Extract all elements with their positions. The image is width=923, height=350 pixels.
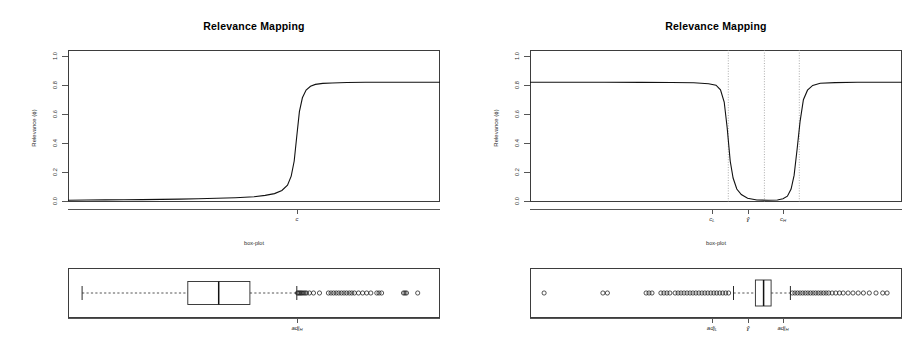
relevance-mapping-figure: Relevance Mapping Relevance (ϕ) 1.0 0.8 … xyxy=(0,0,923,350)
left-y-tick-label: 0.2 xyxy=(52,168,58,176)
left-x-axis-line xyxy=(68,209,440,210)
right-plot-title: Relevance Mapping xyxy=(665,20,766,32)
right-y-tick-label: 0.4 xyxy=(514,139,520,147)
right-boxplot-tick-label-adjL: adjL xyxy=(707,325,717,332)
left-boxplot-tick-label-adjH: adjH xyxy=(291,325,302,332)
left-y-tick-label: 0.8 xyxy=(52,81,58,89)
right-boxplot-tick-adjL xyxy=(712,318,713,323)
left-panel: Relevance Mapping Relevance (ϕ) 1.0 0.8 … xyxy=(0,0,462,350)
right-y-tick-label: 0.2 xyxy=(514,168,520,176)
right-boxplot-tick-adjH xyxy=(783,318,784,323)
right-boxplot-tick-label-gamma: ɣ̂ xyxy=(746,325,749,331)
right-y-tick-label: 0.6 xyxy=(514,110,520,118)
right-x-tick-label-cH: cH xyxy=(780,216,786,223)
right-y-tick-label: 1.0 xyxy=(514,52,520,60)
right-y-tick-label: 0.8 xyxy=(514,81,520,89)
left-plot-title: Relevance Mapping xyxy=(203,20,304,32)
right-x-tick-label-cL: cL xyxy=(709,216,714,223)
left-y-tick-label: 1.0 xyxy=(52,52,58,60)
right-relevance-curve xyxy=(530,50,902,202)
right-x-axis-line xyxy=(530,209,902,210)
left-boxplot-graphic xyxy=(68,268,440,318)
left-boxplot-axis-line xyxy=(68,318,440,319)
right-x-tick-gamma xyxy=(748,209,749,214)
right-boxplot-tick-label-adjH: adjH xyxy=(777,325,788,332)
left-y-tick-label: 0.0 xyxy=(52,197,58,205)
right-y-tick-label: 0.0 xyxy=(514,197,520,205)
right-y-axis-title: Relevance (ϕ) xyxy=(493,109,499,146)
left-boxplot-tick-adjH xyxy=(297,318,298,323)
right-boxplot-graphic xyxy=(530,268,902,318)
right-x-tick-label-gamma: ɣ̂ xyxy=(746,216,749,222)
left-y-tick-label: 0.4 xyxy=(52,139,58,147)
right-boxplot-title: box-plot xyxy=(706,240,726,246)
left-x-tick-c xyxy=(297,209,298,214)
left-x-tick-label-c: c xyxy=(296,216,299,222)
left-y-tick-label: 0.6 xyxy=(52,110,58,118)
right-x-tick-cH xyxy=(783,209,784,214)
left-boxplot-title: box-plot xyxy=(244,240,264,246)
right-panel: Relevance Mapping Relevance (ϕ) 1.0 0.8 … xyxy=(462,0,923,350)
right-boxplot-axis-line xyxy=(530,318,902,319)
right-boxplot-tick-gamma xyxy=(748,318,749,323)
left-y-axis-title: Relevance (ϕ) xyxy=(31,109,37,146)
left-relevance-curve xyxy=(68,50,440,202)
right-x-tick-cL xyxy=(712,209,713,214)
